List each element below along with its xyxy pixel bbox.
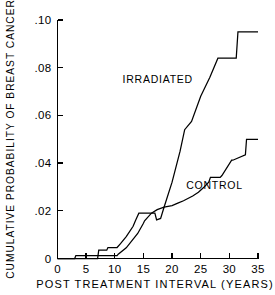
y-tick-label: .02 [35, 205, 52, 217]
y-tick-label: .08 [35, 62, 52, 74]
x-tick-label: 15 [137, 263, 150, 275]
x-tick-label: 0 [54, 263, 61, 275]
series-label-control: CONTROL [186, 179, 243, 191]
line-chart: 0.02.04.06.08.10 05101520253035 IRRADIAT… [0, 0, 275, 295]
x-tick-label: 10 [108, 263, 121, 275]
y-tick-label: .06 [35, 109, 52, 121]
data-series-control [58, 139, 259, 258]
y-axis-tick-labels: 0.02.04.06.08.10 [35, 14, 52, 265]
y-axis-title: CUMULATIVE PROBABILITY OF BREAST CANCER [5, 0, 16, 279]
x-axis-tick-labels: 05101520253035 [54, 263, 265, 275]
y-tick-label: 0 [45, 253, 52, 265]
x-tick-label: 35 [251, 263, 264, 275]
x-tick-label: 5 [83, 263, 90, 275]
y-tick-label: .10 [35, 14, 52, 26]
axis-tick-marks [58, 20, 259, 259]
x-tick-label: 25 [194, 263, 207, 275]
chart-figure: 0.02.04.06.08.10 05101520253035 IRRADIAT… [0, 0, 275, 295]
x-tick-label: 20 [165, 263, 178, 275]
y-tick-label: .04 [35, 157, 52, 169]
data-series-irradiated [58, 32, 259, 259]
x-axis-title: POST TREATMENT INTERVAL (YEARS) [36, 278, 274, 290]
series-label-irradiated: IRRADIATED [123, 73, 193, 85]
x-tick-label: 30 [223, 263, 236, 275]
